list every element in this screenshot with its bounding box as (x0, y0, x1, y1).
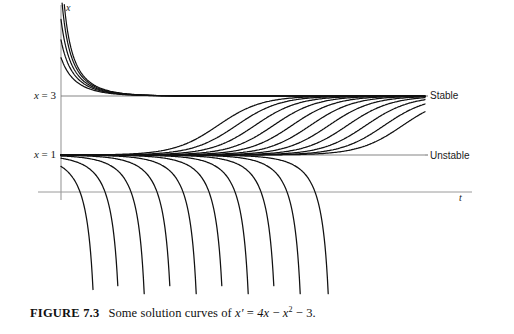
eq-minus2: − (296, 306, 303, 320)
figure-caption: FIGURE 7.3Some solution curves of x′ = 4… (30, 305, 500, 321)
eq-equals: = (247, 306, 254, 320)
solution-curve-below-4 (61, 155, 196, 294)
solution-curve-below-1 (61, 158, 118, 285)
axes-group (38, 5, 472, 200)
equilibrium-value-3: = 3 (39, 89, 56, 101)
solution-curve-above-4 (61, 58, 424, 96)
stable-equilibrium-label: x = 3 (18, 89, 56, 101)
solution-curve-above-2 (61, 19, 424, 96)
caption-equation: x′ = 4x − x2 − 3. (235, 306, 316, 320)
solution-curve-middle-4 (61, 96, 425, 155)
solution-curve-above-3 (61, 40, 424, 96)
unstable-equilibrium-label: x = 1 (18, 148, 56, 160)
solution-curve-below-0 (61, 166, 93, 289)
solution-curves-below-unstable (61, 155, 328, 294)
solution-curve-middle-7 (61, 98, 425, 155)
eq-prime: ′ (241, 306, 244, 320)
solution-curve-below-6 (61, 155, 248, 294)
eq-exponent: 2 (288, 305, 292, 314)
caption-description: Some solution curves of (108, 306, 231, 320)
solution-curve-middle-2 (61, 96, 425, 155)
unstable-annotation: Unstable (430, 150, 469, 161)
solution-curve-middle-0 (61, 96, 425, 155)
figure-number: FIGURE 7.3 (30, 306, 99, 320)
x-axis-label: x (66, 2, 70, 13)
t-axis-label: t (459, 192, 462, 203)
solution-curve-below-5 (61, 155, 222, 286)
solution-curves-above-stable (61, 3, 424, 96)
figure-container: x t x = 3 x = 1 Stable Unstable FIGURE 7… (0, 0, 514, 334)
solution-curve-middle-3 (61, 96, 425, 155)
solution-curve-middle-6 (61, 97, 425, 155)
annotation-leader-lines (425, 96, 428, 155)
solution-curve-above-0 (64, 5, 424, 96)
solution-curve-middle-1 (61, 96, 425, 155)
solution-curves-between-equilibria (61, 96, 425, 155)
solution-curve-middle-5 (61, 96, 425, 155)
eq-minus1: − (272, 306, 279, 320)
solution-curve-above-1 (62, 3, 424, 96)
solution-curve-middle-8 (61, 100, 425, 155)
solution-curve-below-3 (61, 155, 170, 285)
solution-curve-below-2 (61, 156, 144, 294)
stable-annotation: Stable (430, 90, 458, 101)
equilibrium-value-1: = 1 (39, 148, 56, 160)
equilibrium-lines-group (61, 96, 425, 155)
eq-term1: 4x (257, 306, 269, 320)
eq-period: . (313, 306, 316, 320)
